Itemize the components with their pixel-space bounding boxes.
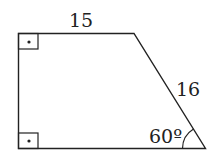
trapezoid-diagram: 15 16 60º xyxy=(0,0,217,154)
right-angle-marker-bottom-left xyxy=(19,133,39,149)
right-angle-marker-top-left xyxy=(19,34,39,50)
angle-arc xyxy=(183,129,194,149)
top-side-label: 15 xyxy=(69,9,93,31)
slant-side-label: 16 xyxy=(176,78,200,100)
angle-label: 60º xyxy=(149,125,182,147)
